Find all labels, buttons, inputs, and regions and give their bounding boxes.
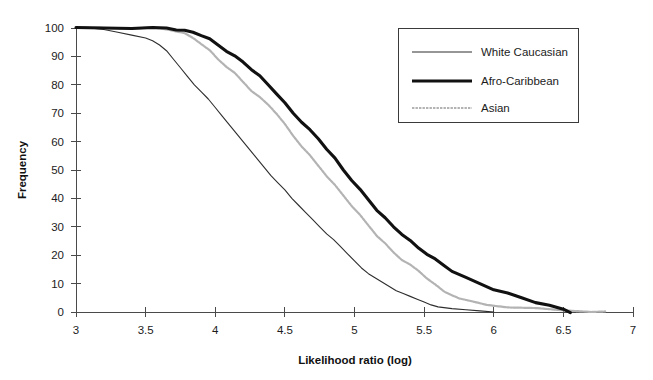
x-tick-label: 5.5 — [416, 324, 432, 336]
y-tick-label: 10 — [51, 278, 64, 290]
chart-legend: White Caucasian Afro-Caribbean Asian — [399, 29, 579, 123]
y-tick-label: 40 — [51, 192, 64, 204]
y-tick-label: 90 — [51, 50, 64, 62]
x-tick-label: 3 — [73, 324, 79, 336]
x-tick-label: 3.5 — [138, 324, 154, 336]
y-tick-label: 0 — [58, 306, 64, 318]
x-tick-label: 5 — [351, 324, 357, 336]
line-chart: 0102030405060708090100 33.544.555.566.57… — [0, 0, 653, 380]
legend-label-white-caucasian: White Caucasian — [481, 46, 568, 58]
x-tick-label: 6.5 — [555, 324, 571, 336]
x-axis-title: Likelihood ratio (log) — [298, 354, 412, 366]
y-tick-label: 70 — [51, 107, 64, 119]
chart-container: 0102030405060708090100 33.544.555.566.57… — [0, 0, 653, 380]
x-tick-label: 6 — [491, 324, 497, 336]
y-tick-label: 80 — [51, 79, 64, 91]
x-tick-label: 7 — [630, 324, 636, 336]
y-tick-label: 50 — [51, 164, 64, 176]
y-tick-label: 20 — [51, 249, 64, 261]
legend-label-asian: Asian — [481, 102, 510, 114]
x-tick-label: 4 — [212, 324, 219, 336]
x-tick-label: 4.5 — [277, 324, 293, 336]
y-tick-label: 100 — [45, 22, 64, 34]
y-tick-label: 60 — [51, 136, 64, 148]
y-tick-label: 30 — [51, 221, 64, 233]
legend-label-afro-caribbean: Afro-Caribbean — [481, 75, 559, 87]
y-axis-title: Frequency — [16, 140, 28, 199]
